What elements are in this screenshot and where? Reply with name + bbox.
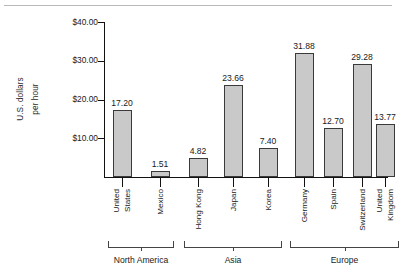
- y-tick-label: $20.00: [38, 95, 98, 104]
- y-tick-mark: [98, 138, 104, 139]
- bar-value-label: 1.51: [140, 159, 180, 169]
- x-category-label: UnitedKingdom: [374, 189, 400, 241]
- bar-value-label: 29.28: [342, 52, 382, 62]
- x-axis-line: [104, 177, 388, 178]
- x-category-label-line: Hong Kong: [193, 189, 204, 241]
- group-brace-tick: [141, 247, 142, 251]
- x-category-label: UnitedStates: [111, 189, 137, 241]
- x-category-label: Korea: [263, 189, 289, 241]
- top-divider-rule: [4, 5, 392, 6]
- x-category-label-line: States: [122, 189, 133, 241]
- bar: [189, 158, 208, 177]
- x-tick-mark: [362, 178, 363, 187]
- x-category-label-line: Japan: [228, 189, 239, 241]
- y-tick-label: $30.00: [38, 56, 98, 65]
- x-category-label-line: United: [111, 189, 122, 241]
- x-tick-mark: [385, 178, 386, 187]
- x-tick-mark: [160, 178, 161, 187]
- group-brace-tick: [345, 247, 346, 251]
- x-category-label: Mexico: [155, 189, 181, 241]
- bar: [224, 85, 243, 177]
- bar: [295, 53, 314, 177]
- x-category-label-line: Germany: [299, 189, 310, 241]
- x-tick-mark: [122, 178, 123, 187]
- x-category-label-line: Mexico: [155, 189, 166, 241]
- bar-value-label: 4.82: [178, 146, 218, 156]
- x-category-label: Japan: [228, 189, 254, 241]
- x-category-label-line: United: [374, 189, 385, 241]
- bar: [376, 124, 395, 177]
- x-category-label-line: Switzerland: [357, 189, 368, 241]
- bar: [259, 148, 278, 177]
- x-tick-mark: [268, 178, 269, 187]
- bar-value-label: 7.40: [248, 136, 288, 146]
- group-label: North America: [91, 255, 191, 265]
- group-brace-tick: [233, 247, 234, 251]
- x-category-label: Hong Kong: [193, 189, 219, 241]
- x-tick-mark: [333, 178, 334, 187]
- bar-value-label: 13.77: [365, 112, 403, 122]
- x-tick-mark: [304, 178, 305, 187]
- x-category-label-line: Korea: [263, 189, 274, 241]
- group-label: Europe: [295, 255, 395, 265]
- group-label: Asia: [183, 255, 283, 265]
- x-tick-mark: [198, 178, 199, 187]
- y-tick-label: $10.00: [38, 134, 98, 143]
- x-tick-mark: [233, 178, 234, 187]
- y-tick-mark: [98, 61, 104, 62]
- y-tick-label: $40.00: [38, 18, 98, 27]
- bar: [113, 110, 132, 177]
- x-category-label: Germany: [299, 189, 325, 241]
- bar-value-label: 31.88: [284, 41, 324, 51]
- y-tick-mark: [98, 22, 104, 23]
- x-category-label-line: Spain: [328, 189, 339, 241]
- y-axis-title-line-1: U.S. dollars: [14, 56, 28, 142]
- bar-value-label: 12.70: [313, 116, 353, 126]
- bar: [151, 171, 170, 177]
- x-category-label-line: Kingdom: [385, 189, 396, 241]
- bar: [324, 128, 343, 177]
- bar-value-label: 17.20: [102, 98, 142, 108]
- x-category-label: Spain: [328, 189, 354, 241]
- bar-value-label: 23.66: [213, 73, 253, 83]
